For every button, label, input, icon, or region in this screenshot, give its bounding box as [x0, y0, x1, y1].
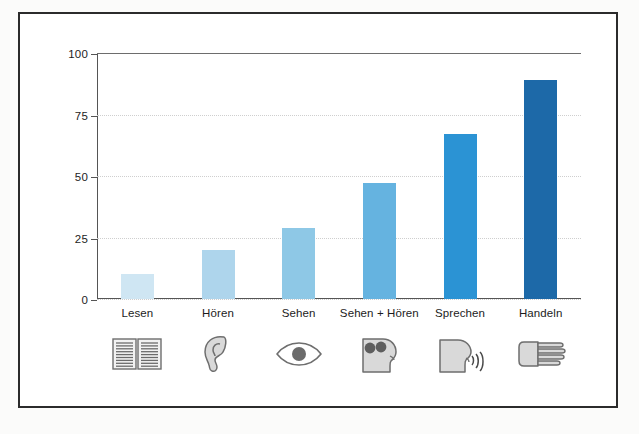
bar-lesen: [121, 274, 154, 299]
category-label-h-ren: Hören: [202, 307, 234, 319]
category-label-sehen-h-ren: Sehen + Hören: [340, 307, 419, 319]
hand-icon: [513, 333, 569, 375]
chart-page: 0255075100 Lesen Hören Sehen Sehen + Hör…: [0, 0, 639, 434]
bar-cell: [258, 53, 339, 299]
y-tick-label-0: 0: [81, 294, 88, 306]
bar-cell: [97, 53, 178, 299]
y-tick-label-25: 25: [75, 233, 88, 245]
bar-sprechen: [444, 134, 477, 299]
category-label-lesen: Lesen: [121, 307, 153, 319]
y-tick-label-100: 100: [68, 48, 88, 60]
eye-icon: [271, 333, 327, 375]
gridline-0: 0: [97, 299, 581, 300]
bar-sehen: [282, 228, 315, 299]
bar-cell: [500, 53, 581, 299]
category-cell: Sehen + Hören: [339, 307, 420, 375]
category-cell: Sehen: [258, 307, 339, 375]
category-axis: Lesen Hören Sehen Sehen + Hören Sprechen: [97, 307, 581, 375]
category-label-sehen: Sehen: [282, 307, 316, 319]
y-tick-label-75: 75: [75, 110, 88, 122]
open-book-icon: [109, 333, 165, 375]
bar-handeln: [524, 80, 557, 299]
category-label-sprechen: Sprechen: [435, 307, 485, 319]
category-cell: Handeln: [500, 307, 581, 375]
y-tick-label-50: 50: [75, 171, 88, 183]
head-seeing-hearing-icon: [351, 333, 407, 375]
bar-h-ren: [202, 250, 235, 299]
y-tick-0: [91, 300, 97, 301]
head-speaking-icon: [432, 333, 488, 375]
ear-icon: [190, 333, 246, 375]
bar-sehen-h-ren: [363, 183, 396, 299]
plot-area: 0255075100: [97, 53, 581, 299]
category-cell: Lesen: [97, 307, 178, 375]
chart-frame: 0255075100 Lesen Hören Sehen Sehen + Hör…: [18, 12, 618, 408]
bar-series: [97, 53, 581, 299]
bar-cell: [339, 53, 420, 299]
category-cell: Sprechen: [420, 307, 501, 375]
category-label-handeln: Handeln: [519, 307, 563, 319]
bar-cell: [420, 53, 501, 299]
category-cell: Hören: [178, 307, 259, 375]
bar-cell: [178, 53, 259, 299]
